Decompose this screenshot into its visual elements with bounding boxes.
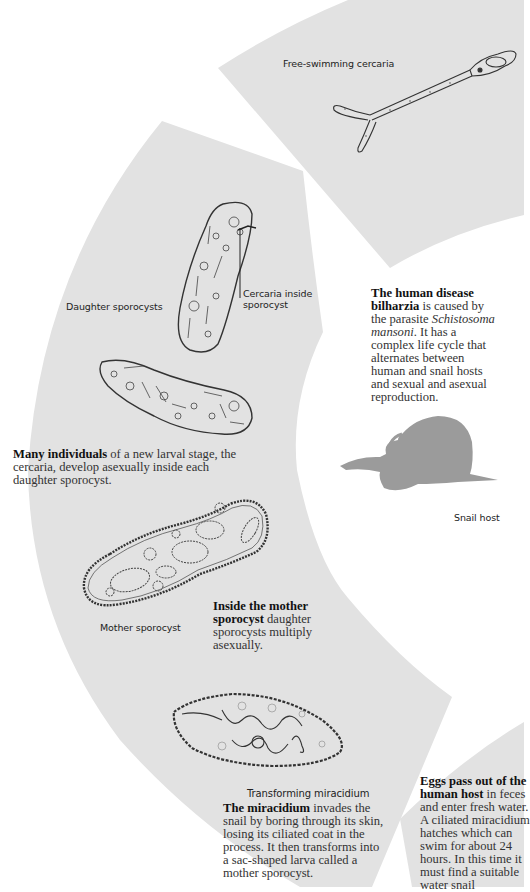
label-free-swimming-cercaria: Free-swimming cercaria — [283, 58, 394, 69]
label-cercaria-inside-sporocyst: Cercaria inside sporocyst — [243, 288, 312, 310]
label-transforming-miracidium: Transforming miracidium — [247, 788, 369, 799]
snail-silhouette-icon — [338, 410, 498, 495]
label-snail-host: Snail host — [454, 512, 500, 523]
pointer-line — [238, 228, 242, 298]
label-daughter-sporocysts: Daughter sporocysts — [66, 301, 163, 312]
paragraph-intro: The human disease bilharzia is caused by… — [371, 287, 501, 404]
paragraph-many-individuals: Many individuals of a new larval stage, … — [13, 448, 253, 487]
transforming-miracidium-illustration — [172, 690, 348, 774]
paragraph-eggs: Eggs pass out of the human host in feces… — [420, 775, 530, 892]
paragraph-miracidium: The miracidium invades the snail by bori… — [223, 802, 385, 880]
daughter-sporocyst-upright-illustration — [168, 196, 268, 356]
label-mother-sporocyst: Mother sporocyst — [100, 622, 181, 633]
daughter-sporocyst-horizontal-illustration — [94, 356, 256, 440]
mother-sporocyst-illustration — [80, 494, 270, 612]
paragraph-inside-mother: Inside the mother sporocyst daughter spo… — [213, 600, 318, 652]
